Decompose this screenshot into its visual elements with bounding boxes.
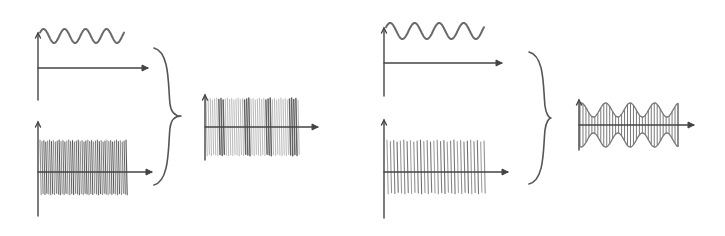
x-axis-arrow-icon [146,169,152,175]
am-message-signal-plot [382,23,503,96]
curly-brace-icon [529,52,551,184]
carrier-oscillation [387,140,485,194]
am-combine-brace [529,52,551,184]
x-axis-arrow-icon [312,124,318,130]
fm-carrier-signal-plot [36,122,153,216]
am-panel [382,23,695,218]
upper-envelope [580,103,678,117]
modulation-diagram [0,0,725,236]
x-axis-arrow-icon [142,65,148,71]
diagram-canvas [0,0,725,236]
am-carrier-signal-plot [382,120,509,218]
fm-panel [36,29,319,216]
fm-message-signal-plot [36,29,149,100]
x-axis-arrow-icon [502,169,508,175]
am-modulated-signal-plot [577,100,695,150]
message-sine-wave [386,23,484,39]
fm-modulated-signal-plot [203,95,319,160]
lower-envelope [580,133,678,147]
carrier-oscillation [40,140,127,195]
curly-brace-icon [154,48,181,185]
fm-combine-brace [154,48,181,185]
x-axis-arrow-icon [496,60,502,66]
x-axis-arrow-icon [688,122,694,128]
message-sine-wave [40,29,124,43]
